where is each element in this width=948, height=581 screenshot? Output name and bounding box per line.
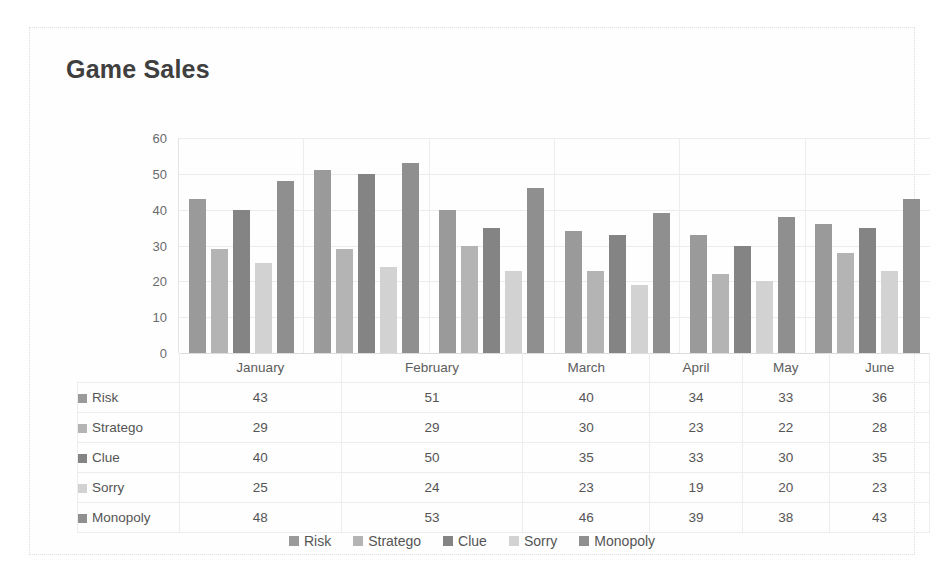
bar-group-april	[555, 138, 680, 353]
chart-legend: RiskStrategoClueSorryMonopoly	[30, 533, 914, 549]
bar-group-february	[304, 138, 429, 353]
table-cell: 29	[180, 413, 342, 443]
bar-group-march	[430, 138, 555, 353]
bar-sorry-january[interactable]	[255, 263, 272, 353]
table-cell: 35	[523, 443, 650, 473]
legend-item-clue[interactable]: Clue	[443, 533, 487, 549]
legend-item-sorry[interactable]: Sorry	[509, 533, 557, 549]
table-cell: 43	[180, 383, 342, 413]
plot-area	[178, 138, 930, 353]
table-cell: 33	[742, 383, 829, 413]
table-row: Sorry252423192023	[78, 473, 930, 503]
data-table: JanuaryFebruaryMarchAprilMayJune Risk435…	[77, 353, 930, 533]
table-series-label-stratego: Stratego	[78, 413, 180, 443]
table-cell: 36	[830, 383, 930, 413]
table-column-header-january: January	[180, 353, 342, 383]
bar-monopoly-may[interactable]	[778, 217, 795, 353]
table-column-header-february: February	[341, 353, 523, 383]
series-label-text: Clue	[92, 450, 120, 465]
bar-sorry-february[interactable]	[380, 267, 397, 353]
bar-monopoly-january[interactable]	[277, 181, 294, 353]
bar-clue-april[interactable]	[609, 235, 626, 353]
bar-monopoly-march[interactable]	[527, 188, 544, 353]
table-column-header-may: May	[742, 353, 829, 383]
bar-stratego-april[interactable]	[587, 271, 604, 353]
bar-clue-february[interactable]	[358, 174, 375, 353]
series-label-text: Sorry	[92, 480, 124, 495]
bar-clue-january[interactable]	[233, 210, 250, 353]
table-cell: 23	[523, 473, 650, 503]
bar-risk-january[interactable]	[189, 199, 206, 353]
bar-clue-march[interactable]	[483, 228, 500, 353]
table-series-label-clue: Clue	[78, 443, 180, 473]
bar-group-june	[806, 138, 930, 353]
bar-sorry-march[interactable]	[505, 271, 522, 353]
table-cell: 29	[341, 413, 523, 443]
table-cell: 23	[650, 413, 742, 443]
chart-container: Game Sales 6050403020100 JanuaryFebruary…	[29, 27, 915, 555]
table-header: JanuaryFebruaryMarchAprilMayJune	[78, 353, 930, 383]
legend-item-label: Stratego	[368, 533, 421, 549]
legend-item-stratego[interactable]: Stratego	[353, 533, 421, 549]
legend-color-swatch-icon	[289, 536, 299, 546]
bar-monopoly-april[interactable]	[653, 213, 670, 353]
series-label-text: Risk	[92, 390, 118, 405]
table-column-header-june: June	[830, 353, 930, 383]
bar-group-may	[680, 138, 805, 353]
table-cell: 33	[650, 443, 742, 473]
table-cell: 39	[650, 503, 742, 533]
bar-risk-may[interactable]	[690, 235, 707, 353]
table-cell: 30	[523, 413, 650, 443]
table-cell: 20	[742, 473, 829, 503]
y-axis-tick-label: 20	[153, 274, 167, 289]
legend-item-label: Risk	[304, 533, 331, 549]
table-corner-cell	[78, 353, 180, 383]
table-series-label-monopoly: Monopoly	[78, 503, 180, 533]
bar-risk-february[interactable]	[314, 170, 331, 353]
legend-item-risk[interactable]: Risk	[289, 533, 331, 549]
bar-monopoly-february[interactable]	[402, 163, 419, 353]
table-cell: 25	[180, 473, 342, 503]
bar-stratego-january[interactable]	[211, 249, 228, 353]
table-cell: 35	[830, 443, 930, 473]
bar-risk-june[interactable]	[815, 224, 832, 353]
legend-item-label: Monopoly	[594, 533, 655, 549]
series-color-swatch-icon	[78, 394, 87, 403]
legend-color-swatch-icon	[579, 536, 589, 546]
bar-stratego-may[interactable]	[712, 274, 729, 353]
table-column-header-april: April	[650, 353, 742, 383]
table-cell: 48	[180, 503, 342, 533]
table-row: Monopoly485346393843	[78, 503, 930, 533]
table-header-row: JanuaryFebruaryMarchAprilMayJune	[78, 353, 930, 383]
bar-stratego-march[interactable]	[461, 246, 478, 354]
bar-monopoly-june[interactable]	[903, 199, 920, 353]
bar-sorry-may[interactable]	[756, 281, 773, 353]
bar-sorry-april[interactable]	[631, 285, 648, 353]
legend-color-swatch-icon	[353, 536, 363, 546]
table-cell: 40	[180, 443, 342, 473]
series-color-swatch-icon	[78, 484, 87, 493]
series-label-text: Monopoly	[92, 510, 151, 525]
y-axis-tick-label: 10	[153, 310, 167, 325]
bar-risk-march[interactable]	[439, 210, 456, 353]
bar-clue-may[interactable]	[734, 246, 751, 354]
legend-item-monopoly[interactable]: Monopoly	[579, 533, 655, 549]
table-row: Stratego292930232228	[78, 413, 930, 443]
table-cell: 30	[742, 443, 829, 473]
bar-groups	[179, 138, 930, 353]
table-cell: 22	[742, 413, 829, 443]
table-body: Risk435140343336Stratego292930232228Clue…	[78, 383, 930, 533]
bar-risk-april[interactable]	[565, 231, 582, 353]
table-cell: 28	[830, 413, 930, 443]
table-row: Clue405035333035	[78, 443, 930, 473]
table-cell: 24	[341, 473, 523, 503]
table-cell: 50	[341, 443, 523, 473]
table-series-label-sorry: Sorry	[78, 473, 180, 503]
bar-stratego-february[interactable]	[336, 249, 353, 353]
legend-item-label: Sorry	[524, 533, 557, 549]
table-cell: 51	[341, 383, 523, 413]
table-cell: 34	[650, 383, 742, 413]
bar-stratego-june[interactable]	[837, 253, 854, 353]
bar-sorry-june[interactable]	[881, 271, 898, 353]
bar-clue-june[interactable]	[859, 228, 876, 353]
